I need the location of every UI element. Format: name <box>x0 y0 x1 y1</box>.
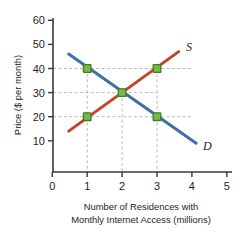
x-axis-tick-labels: 0 1 2 3 4 5 <box>49 180 230 192</box>
data-point-1-40 <box>83 65 91 73</box>
data-point-1-20 <box>83 113 91 121</box>
supply-demand-chart: 60 50 40 30 20 10 0 1 2 3 4 5 Price ($ p… <box>0 0 251 233</box>
y-tick-label-20: 20 <box>33 111 45 123</box>
demand-curve-label: D <box>202 139 212 153</box>
x-axis-title-line-2: Monthly Internet Access (millions) <box>71 214 211 225</box>
data-point-3-40 <box>153 65 161 73</box>
y-axis-title: Price ($ per month) <box>12 55 23 135</box>
chart-canvas: 60 50 40 30 20 10 0 1 2 3 4 5 Price ($ p… <box>0 0 251 233</box>
x-tick-label-1: 1 <box>84 180 90 192</box>
data-point-2-30-equilibrium <box>118 89 126 97</box>
x-tick-label-3: 3 <box>154 180 160 192</box>
y-axis-tick-labels: 60 50 40 30 20 10 <box>33 14 45 147</box>
supply-curve-label: S <box>186 40 192 54</box>
vertical-gridlines <box>87 69 157 173</box>
x-axis-title-line-1: Number of Residences with <box>84 201 199 212</box>
y-tick-label-60: 60 <box>33 14 45 26</box>
y-tick-label-30: 30 <box>33 87 45 99</box>
y-tick-label-40: 40 <box>33 63 45 75</box>
x-tick-label-5: 5 <box>224 180 230 192</box>
y-tick-label-10: 10 <box>33 135 45 147</box>
x-tick-label-0: 0 <box>49 180 55 192</box>
x-tick-label-2: 2 <box>119 180 125 192</box>
x-tick-label-4: 4 <box>189 180 195 192</box>
y-tick-label-50: 50 <box>33 38 45 50</box>
data-point-3-20 <box>153 113 161 121</box>
